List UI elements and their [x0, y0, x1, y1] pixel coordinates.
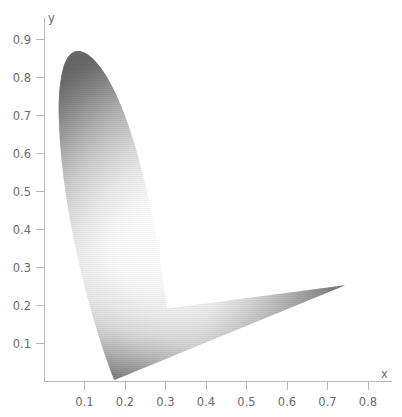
x-axis-ticks	[85, 382, 369, 390]
y-axis-title: y	[48, 11, 55, 25]
y-tick-label: 0.1	[13, 337, 31, 351]
x-tick-label: 0.1	[75, 395, 93, 409]
y-axis-tick-labels: 0.9 0.8 0.7 0.6 0.5 0.4 0.3 0.2 0.1	[13, 33, 31, 351]
x-axis-tick-labels: 0.1 0.2 0.3 0.4 0.5 0.6 0.7 0.8	[75, 395, 377, 409]
y-tick-label: 0.7	[13, 109, 31, 123]
x-tick-label: 0.6	[278, 395, 296, 409]
y-axis-ticks	[36, 40, 44, 344]
x-tick-label: 0.8	[359, 395, 377, 409]
gamut-region	[40, 40, 370, 390]
y-axis: 0.9 0.8 0.7 0.6 0.5 0.4 0.3 0.2 0.1 y	[13, 11, 55, 382]
x-tick-label: 0.7	[318, 395, 336, 409]
y-tick-label: 0.5	[13, 185, 31, 199]
x-tick-label: 0.4	[197, 395, 215, 409]
x-tick-label: 0.2	[116, 395, 134, 409]
y-tick-label: 0.4	[13, 223, 31, 237]
chart-canvas: 0.9 0.8 0.7 0.6 0.5 0.4 0.3 0.2 0.1 y	[0, 0, 402, 417]
y-tick-label: 0.2	[13, 299, 31, 313]
x-tick-label: 0.5	[237, 395, 255, 409]
y-tick-label: 0.3	[13, 261, 31, 275]
x-axis-title: x	[381, 367, 388, 381]
x-axis: 0.1 0.2 0.3 0.4 0.5 0.6 0.7 0.8 x	[44, 367, 392, 409]
y-tick-label: 0.6	[13, 147, 31, 161]
chromaticity-diagram-figure: 0.9 0.8 0.7 0.6 0.5 0.4 0.3 0.2 0.1 y	[0, 0, 402, 417]
y-tick-label: 0.9	[13, 33, 31, 47]
y-tick-label: 0.8	[13, 71, 31, 85]
x-tick-label: 0.3	[156, 395, 174, 409]
